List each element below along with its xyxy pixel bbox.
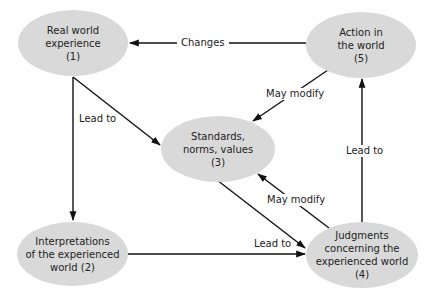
node-label-line: concerning the [325, 242, 400, 255]
edge-label-lead-to-n2-n4: Lead to [254, 238, 291, 250]
edge-label-changes: Changes [177, 37, 229, 49]
node-label-line: (1) [66, 50, 80, 63]
node-label-line: experienced world [316, 255, 409, 268]
edge-label-may-modify-n4-n3: May modify [265, 194, 327, 206]
node-label-line: world (2) [50, 261, 95, 274]
node-label-line: the world [337, 39, 384, 52]
node-judgments: Judgments concerning the experienced wor… [306, 222, 418, 288]
edge-label-lead-to-n4-n5: Lead to [344, 145, 385, 157]
node-label-line: Action in [339, 26, 383, 39]
node-label-line: (4) [355, 268, 369, 281]
edge-n1-n3 [73, 77, 160, 145]
node-label-line: Standards, [191, 130, 245, 143]
node-real-world-experience: Real world experience (1) [18, 10, 128, 76]
node-label-line: of the experienced [25, 248, 119, 261]
edge-label-may-modify-n5-n3: May modify [264, 88, 326, 100]
node-label-line: experience [45, 37, 100, 50]
node-action-in-the-world: Action in the world (5) [306, 12, 416, 78]
node-label-line: Real world [47, 24, 99, 37]
node-label-line: Interpretations [35, 235, 109, 248]
edge-label-lead-to-n1-n3: Lead to [79, 113, 116, 125]
node-interpretations: Interpretations of the experienced world… [17, 222, 128, 286]
node-label-line: (3) [211, 156, 225, 169]
node-label-line: norms, values [183, 143, 253, 156]
node-label-line: (5) [354, 52, 368, 65]
node-label-line: Judgments [335, 229, 388, 242]
node-standards-norms-values: Standards, norms, values (3) [161, 116, 275, 182]
